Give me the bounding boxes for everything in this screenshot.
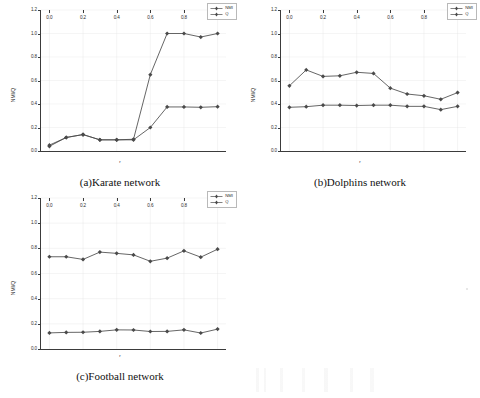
y-tick-label: 0.8	[255, 55, 277, 60]
legend-label-q: Q	[465, 12, 468, 16]
y-tick-label: 0.6	[255, 78, 277, 83]
x-tick-mark	[289, 10, 290, 13]
chart-panel-karate: 0.00.20.40.60.81.01.20.00.20.40.60.81.0 …	[0, 0, 240, 190]
legend-item-q: Q	[210, 200, 233, 205]
legend-label-nmi: NMI	[225, 194, 233, 198]
y-tick-label: 0.4	[15, 102, 37, 107]
y-tick-label: 1.2	[255, 8, 277, 13]
chart-panel-football: 0.00.20.40.60.81.01.20.00.20.40.60.81.0 …	[0, 188, 240, 388]
y-tick-label: 1.0	[15, 221, 37, 226]
plot-svg-karate	[41, 10, 226, 151]
y-tick-label: 0.0	[255, 149, 277, 154]
data-point-marker	[64, 255, 68, 259]
panel-caption: (a)Karate network	[0, 176, 240, 188]
scan-artifact	[250, 368, 430, 392]
data-point-marker	[405, 104, 409, 108]
x-tick-label: 0.4	[105, 204, 129, 360]
data-point-marker	[131, 328, 135, 332]
chart-panel-dolphins: 0.00.20.40.60.81.01.20.00.20.40.60.81.0 …	[240, 0, 480, 190]
legend-item-q: Q	[450, 12, 473, 17]
legend-marker-nmi-icon	[450, 6, 463, 11]
y-tick-mark	[278, 10, 281, 11]
data-point-marker	[165, 256, 169, 260]
legend-football: NMI Q	[207, 191, 237, 208]
legend-marker-nmi-icon	[210, 194, 223, 199]
data-point-marker	[371, 103, 375, 107]
y-tick-label: 0.8	[15, 246, 37, 251]
panel-caption: (b)Dolphins network	[240, 176, 480, 188]
x-tick-mark	[150, 10, 151, 13]
legend-marker-q-icon	[210, 12, 223, 17]
data-point-marker	[199, 331, 203, 335]
data-point-marker	[98, 329, 102, 333]
y-tick-label: 0.4	[15, 296, 37, 301]
legend-karate: NMI Q	[207, 3, 237, 20]
x-tick-label: 0.6	[138, 16, 162, 162]
x-tick-mark	[83, 198, 84, 201]
x-tick-mark	[49, 198, 50, 201]
scan-speck	[466, 288, 468, 290]
legend-item-nmi: NMI	[210, 194, 233, 199]
legend-dolphins: NMI Q	[447, 3, 477, 20]
x-tick-mark	[117, 10, 118, 13]
x-tick-mark	[184, 198, 185, 201]
x-axis-label: r	[359, 159, 360, 164]
y-tick-label: 0.4	[255, 102, 277, 107]
plot-area-football: 0.00.20.40.60.81.01.20.00.20.40.60.81.0	[40, 198, 226, 350]
data-point-marker	[98, 138, 102, 142]
legend-label-nmi: NMI	[225, 6, 233, 10]
y-tick-label: 1.2	[15, 196, 37, 201]
y-tick-label: 1.0	[15, 31, 37, 36]
x-tick-label: 0.2	[71, 204, 95, 360]
y-tick-label: 0.0	[15, 149, 37, 154]
plot-svg-dolphins	[281, 10, 466, 151]
y-axis-label: NMI/Q	[10, 88, 16, 102]
y-axis-label: NMI/Q	[250, 88, 256, 102]
legend-item-q: Q	[210, 12, 233, 17]
panel-caption: (c)Football network	[0, 370, 240, 382]
legend-marker-q-icon	[210, 200, 223, 205]
x-tick-mark	[357, 10, 358, 13]
y-tick-label: 0.2	[15, 125, 37, 130]
data-point-marker	[98, 250, 102, 254]
x-tick-label: 0.8	[172, 204, 196, 360]
data-point-marker	[131, 253, 135, 257]
y-tick-mark	[38, 198, 41, 199]
y-tick-mark	[38, 10, 41, 11]
x-tick-label: 0.8	[412, 16, 436, 162]
x-tick-label: 0.0	[37, 204, 61, 360]
figure-container: 0.00.20.40.60.81.01.20.00.20.40.60.81.0 …	[0, 0, 480, 398]
x-tick-label: 1.0	[446, 16, 470, 162]
x-tick-label: 0.2	[311, 16, 335, 162]
data-point-marker	[199, 35, 203, 39]
x-tick-mark	[390, 10, 391, 13]
x-axis-label: r	[119, 159, 120, 164]
x-tick-label: 0.6	[378, 16, 402, 162]
x-tick-mark	[323, 10, 324, 13]
y-tick-label: 0.6	[15, 271, 37, 276]
x-tick-label: 0.0	[277, 16, 301, 162]
data-point-marker	[64, 330, 68, 334]
legend-label-q: Q	[225, 200, 228, 204]
legend-marker-q-icon	[450, 12, 463, 17]
x-tick-label: 0.4	[105, 16, 129, 162]
y-tick-label: 0.0	[15, 347, 37, 352]
data-point-marker	[338, 103, 342, 107]
data-point-marker	[439, 108, 443, 112]
data-point-marker	[405, 92, 409, 96]
legend-item-nmi: NMI	[210, 6, 233, 11]
x-tick-mark	[83, 10, 84, 13]
x-tick-label: 0.4	[345, 16, 369, 162]
plot-svg-football	[41, 198, 226, 349]
x-tick-mark	[184, 10, 185, 13]
legend-item-nmi: NMI	[450, 6, 473, 11]
y-tick-label: 0.8	[15, 55, 37, 60]
x-tick-mark	[117, 198, 118, 201]
x-tick-mark	[150, 198, 151, 201]
x-axis-label: r	[119, 353, 120, 358]
x-tick-label: 0.8	[172, 16, 196, 162]
plot-area-dolphins: 0.00.20.40.60.81.01.20.00.20.40.60.81.0	[280, 10, 466, 152]
x-tick-label: 1.0	[206, 204, 230, 360]
y-tick-label: 1.2	[15, 8, 37, 13]
x-tick-label: 0.0	[37, 16, 61, 162]
